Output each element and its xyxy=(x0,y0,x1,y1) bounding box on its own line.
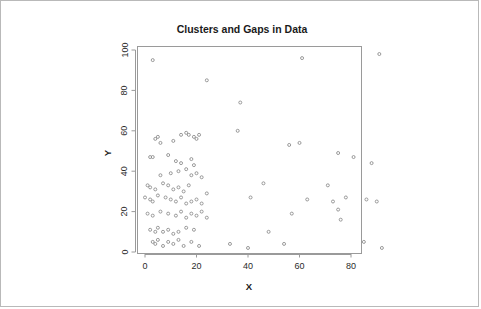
data-point xyxy=(159,174,162,177)
data-point xyxy=(331,200,334,203)
data-point xyxy=(177,238,180,241)
data-point xyxy=(200,202,203,205)
data-point xyxy=(149,186,152,189)
y-axis-ticks: 020406080100 xyxy=(120,42,136,254)
data-point xyxy=(239,101,242,104)
data-point xyxy=(174,214,177,217)
y-tick-label: 20 xyxy=(120,207,130,217)
data-point xyxy=(192,164,195,167)
y-tick-label: 80 xyxy=(120,85,130,95)
data-point xyxy=(344,196,347,199)
data-point xyxy=(180,133,183,136)
data-point xyxy=(190,240,193,243)
data-point xyxy=(185,216,188,219)
data-point xyxy=(167,240,170,243)
data-point xyxy=(162,182,165,185)
data-point xyxy=(174,200,177,203)
data-point xyxy=(205,79,208,82)
scatter-plot-figure: Clusters and Gaps in Data 020406080 0204… xyxy=(1,1,480,308)
data-point xyxy=(151,156,154,159)
data-point xyxy=(146,212,149,215)
data-point xyxy=(167,212,170,215)
data-point xyxy=(375,200,378,203)
x-tick-label: 20 xyxy=(191,261,201,271)
data-point xyxy=(267,230,270,233)
data-point xyxy=(177,230,180,233)
data-points-layer xyxy=(144,53,384,250)
data-point xyxy=(185,226,188,229)
data-point xyxy=(198,244,201,247)
data-point xyxy=(174,160,177,163)
data-point xyxy=(154,242,157,245)
data-point xyxy=(370,162,373,165)
data-point xyxy=(172,232,175,235)
data-point xyxy=(195,198,198,201)
data-point xyxy=(185,168,188,171)
data-point xyxy=(151,214,154,217)
data-point xyxy=(301,57,304,60)
data-point xyxy=(144,196,147,199)
data-point xyxy=(190,174,193,177)
data-point xyxy=(283,242,286,245)
data-point xyxy=(180,196,183,199)
data-point xyxy=(156,194,159,197)
data-point xyxy=(326,184,329,187)
data-point xyxy=(162,230,165,233)
data-point xyxy=(167,184,170,187)
data-point xyxy=(182,244,185,247)
data-point xyxy=(380,246,383,249)
data-point xyxy=(156,226,159,229)
data-point xyxy=(290,212,293,215)
data-point xyxy=(151,59,154,62)
data-point xyxy=(362,240,365,243)
data-point xyxy=(378,53,381,56)
data-point xyxy=(249,196,252,199)
x-axis-label: X xyxy=(246,281,253,292)
data-point xyxy=(198,133,201,136)
data-point xyxy=(190,158,193,161)
data-point xyxy=(149,228,152,231)
data-point xyxy=(167,154,170,157)
plot-canvas: Clusters and Gaps in Data 020406080 0204… xyxy=(1,1,480,308)
data-point xyxy=(190,200,193,203)
data-point xyxy=(247,246,250,249)
data-point xyxy=(159,141,162,144)
data-point xyxy=(172,139,175,142)
chart-title: Clusters and Gaps in Data xyxy=(177,23,308,35)
data-point xyxy=(288,143,291,146)
data-point xyxy=(156,238,159,241)
data-point xyxy=(200,176,203,179)
data-point xyxy=(262,182,265,185)
data-point xyxy=(187,184,190,187)
data-point xyxy=(180,162,183,165)
data-point xyxy=(172,188,175,191)
data-point xyxy=(228,242,231,245)
data-point xyxy=(205,192,208,195)
data-point xyxy=(298,141,301,144)
x-axis-ticks: 020406080 xyxy=(142,254,356,271)
data-point xyxy=(151,200,154,203)
y-tick-label: 40 xyxy=(120,166,130,176)
data-point xyxy=(169,172,172,175)
data-point xyxy=(337,152,340,155)
data-point xyxy=(352,156,355,159)
data-point xyxy=(205,216,208,219)
data-point xyxy=(185,202,188,205)
y-tick-label: 60 xyxy=(120,126,130,136)
data-point xyxy=(159,210,162,213)
x-tick-label: 0 xyxy=(142,261,147,271)
data-point xyxy=(365,198,368,201)
data-point xyxy=(182,190,185,193)
data-point xyxy=(200,210,203,213)
data-point xyxy=(192,228,195,231)
plot-frame xyxy=(138,47,362,254)
data-point xyxy=(172,242,175,245)
data-point xyxy=(306,198,309,201)
data-point xyxy=(180,210,183,213)
data-point xyxy=(162,244,165,247)
y-axis-label: Y xyxy=(102,149,113,156)
x-tick-label: 60 xyxy=(294,261,304,271)
figure-card: Clusters and Gaps in Data 020406080 0204… xyxy=(0,0,479,307)
data-point xyxy=(190,212,193,215)
y-tick-label: 0 xyxy=(120,249,130,254)
